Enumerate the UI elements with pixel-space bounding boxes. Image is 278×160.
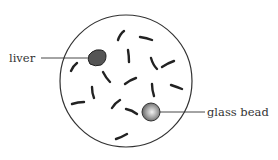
glass-bead — [142, 103, 160, 121]
rod-particle — [92, 87, 94, 98]
rod-particle — [71, 63, 77, 71]
container-circle — [60, 15, 192, 147]
glass-bead-label: glass bead — [207, 105, 269, 119]
rod-particle — [152, 84, 154, 96]
rod-particle — [140, 37, 152, 40]
rod-particle — [103, 72, 110, 82]
rod-particle — [151, 58, 157, 69]
rod-particle — [116, 134, 127, 139]
rod-particles — [71, 31, 182, 139]
liver-label: liver — [9, 51, 36, 65]
rod-particle — [112, 100, 120, 108]
rod-particle — [125, 78, 136, 84]
rod-particle — [118, 31, 124, 40]
rod-particle — [128, 50, 129, 62]
rod-particle — [162, 61, 174, 67]
rod-particle — [171, 85, 182, 89]
rod-particle — [72, 102, 84, 104]
diagram-canvas: liver glass bead — [0, 0, 278, 160]
liver-piece — [88, 50, 106, 66]
rod-particle — [126, 109, 137, 114]
